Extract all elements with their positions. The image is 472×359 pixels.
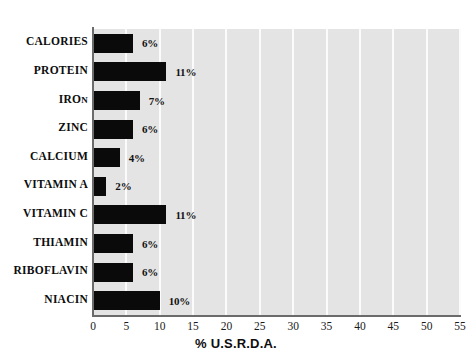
bar <box>93 263 133 282</box>
x-tick-label: 0 <box>90 320 96 332</box>
bar <box>93 120 133 139</box>
category-label: VITAMIN A <box>2 178 88 190</box>
bar-value-label: 6% <box>142 123 158 135</box>
x-tick-label: 10 <box>154 320 166 332</box>
bar-row: 11% <box>93 205 460 224</box>
bar-row: 7% <box>93 91 460 110</box>
category-label: PROTEIN <box>2 64 88 76</box>
category-label: RIBOFLAVIN <box>2 264 88 276</box>
bar <box>93 62 166 81</box>
bar <box>93 34 133 53</box>
x-tick-label: 5 <box>123 320 129 332</box>
bar-value-label: 7% <box>149 95 165 107</box>
x-tick-label: 35 <box>321 320 333 332</box>
y-axis-line <box>92 27 94 317</box>
x-tick-label: 40 <box>354 320 366 332</box>
category-axis-labels: CALORIESPROTEINIRONZINCCALCIUMVITAMIN AV… <box>0 29 88 315</box>
x-tick-label: 55 <box>454 320 466 332</box>
bar-value-label: 10% <box>169 295 190 307</box>
bar-row: 6% <box>93 34 460 53</box>
bar-value-label: 6% <box>142 37 158 49</box>
bar <box>93 291 160 310</box>
bar-row: 6% <box>93 234 460 253</box>
x-tick-label: 50 <box>421 320 433 332</box>
x-tick-label: 45 <box>388 320 400 332</box>
bar-row: 6% <box>93 263 460 282</box>
bar-row: 2% <box>93 177 460 196</box>
bar-value-label: 11% <box>175 209 196 221</box>
bar-value-label: 11% <box>175 66 196 78</box>
x-tick-label: 15 <box>187 320 199 332</box>
bar <box>93 177 106 196</box>
bar-row: 11% <box>93 62 460 81</box>
bar-row: 10% <box>93 291 460 310</box>
bar-value-label: 6% <box>142 238 158 250</box>
bar <box>93 234 133 253</box>
x-tick-label: 30 <box>287 320 299 332</box>
category-label: ZINC <box>2 121 88 133</box>
bar-value-label: 6% <box>142 266 158 278</box>
category-label: NIACIN <box>2 293 88 305</box>
category-label: CALORIES <box>2 35 88 47</box>
bar-value-label: 2% <box>115 180 131 192</box>
category-label: THIAMIN <box>2 236 88 248</box>
category-label: VITAMIN C <box>2 207 88 219</box>
x-axis-title: % U.S.R.D.A. <box>0 336 472 351</box>
category-label: IRON <box>2 93 88 105</box>
plot-area: 6%11%7%6%4%2%11%6%6%10% <box>93 29 460 315</box>
category-label: CALCIUM <box>2 150 88 162</box>
chart-figure: 6%11%7%6%4%2%11%6%6%10% CALORIESPROTEINI… <box>0 0 472 359</box>
bar-row: 6% <box>93 120 460 139</box>
x-axis-line <box>92 315 461 317</box>
bar <box>93 91 140 110</box>
bar-row: 4% <box>93 148 460 167</box>
x-tick-label: 20 <box>221 320 233 332</box>
x-tick-label: 25 <box>254 320 266 332</box>
bar <box>93 205 166 224</box>
bar <box>93 148 120 167</box>
bar-value-label: 4% <box>129 152 145 164</box>
